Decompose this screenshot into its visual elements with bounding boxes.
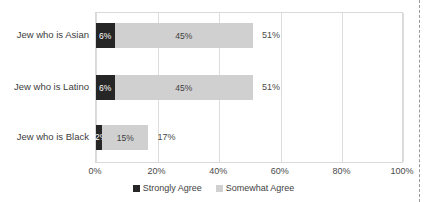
x-axis-tick-40: 40% — [209, 166, 227, 176]
legend-item-strongly-agree[interactable]: Strongly Agree — [133, 183, 202, 193]
stacked-bar-chart: 6% 45% 51% 6% 45% 51% 2% 15% 17% Jew who… — [0, 0, 427, 202]
bar-total-label: 51% — [253, 23, 280, 48]
gridline-100 — [403, 13, 404, 162]
legend-label-somewhat-agree: Somewhat Agree — [226, 183, 295, 193]
chart-legend: Strongly Agree Somewhat Agree — [0, 183, 427, 193]
legend-swatch-icon-somewhat-agree — [216, 185, 223, 192]
x-axis-tick-60: 60% — [271, 166, 289, 176]
x-axis-tick-100: 100% — [390, 166, 413, 176]
category-label-latino: Jew who is Latino — [0, 74, 89, 99]
bar-segment-somewhat-agree: 45% — [115, 75, 254, 100]
x-axis-tick-0: 0% — [88, 166, 101, 176]
legend-item-somewhat-agree[interactable]: Somewhat Agree — [216, 183, 295, 193]
category-label-black: Jew who is Black — [0, 124, 89, 149]
gridline-60 — [281, 13, 282, 162]
bar-total-label: 17% — [148, 125, 175, 150]
bar-segment-somewhat-agree: 45% — [115, 23, 254, 48]
category-label-asian: Jew who is Asian — [0, 22, 89, 47]
bar-segment-strongly-agree: 6% — [96, 75, 115, 100]
page-edge-dotted-rule — [419, 0, 420, 202]
bar-row-latino: 6% 45% 51% — [96, 75, 253, 100]
bar-total-label: 51% — [253, 75, 280, 100]
legend-label-strongly-agree: Strongly Agree — [143, 183, 202, 193]
x-axis-tick-80: 80% — [332, 166, 350, 176]
legend-swatch-icon-strongly-agree — [133, 185, 140, 192]
plot-area: 6% 45% 51% 6% 45% 51% 2% 15% 17% — [95, 12, 403, 163]
bar-row-black: 2% 15% 17% — [96, 125, 148, 150]
bar-segment-somewhat-agree: 15% — [102, 125, 148, 150]
x-axis-tick-20: 20% — [148, 166, 166, 176]
bar-segment-strongly-agree: 6% — [96, 23, 115, 48]
bar-row-asian: 6% 45% 51% — [96, 23, 253, 48]
gridline-80 — [342, 13, 343, 162]
